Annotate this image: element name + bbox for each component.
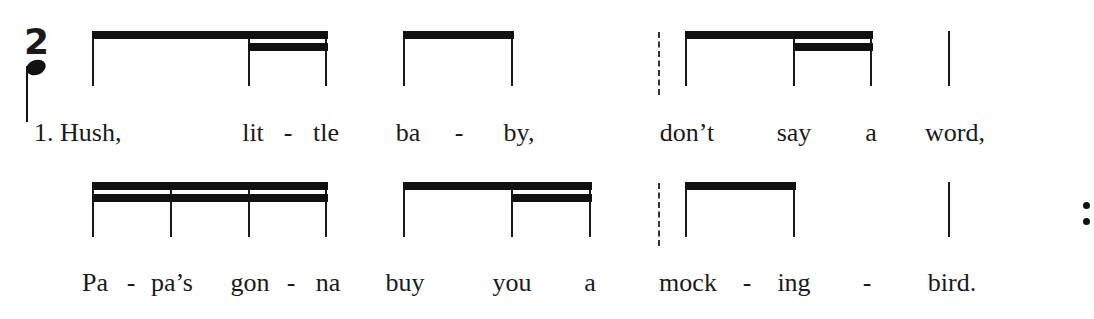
lyric-syllable: by, [504,120,535,146]
eighth-beam [685,182,796,190]
lyric-hyphen: - [284,120,293,146]
sixteenth-beam [511,194,592,202]
eighth-beam [92,31,328,39]
lyric-syllable: 1. Hush, [34,120,121,146]
note-stem [948,182,950,237]
lyric-hyphen: - [863,270,872,296]
sixteenth-beam [92,194,328,202]
note-stem [793,182,795,237]
lyric-hyphen: - [127,270,136,296]
note-stem [793,31,795,86]
lyric-hyphen: - [455,120,464,146]
dashed-barline [658,32,660,95]
note-stem [170,182,172,237]
note-stem [248,182,250,237]
quarter-note-stem [26,66,28,122]
note-stem [685,31,687,86]
note-stem [325,31,327,86]
note-stem [403,31,405,86]
note-stem [92,31,94,86]
note-stem [870,31,872,86]
eighth-beam [403,31,514,39]
eighth-beam [92,182,328,190]
sixteenth-beam [248,43,328,51]
lyric-syllable: lit [242,120,264,146]
note-stem [325,182,327,237]
lyric-syllable: tle [313,120,339,146]
lyric-syllable: gon [231,270,270,296]
note-stem [589,182,591,237]
dashed-barline [658,183,660,246]
time-signature-numerator: 2 [24,24,49,60]
lyric-syllable: ba [396,120,421,146]
lyric-hyphen: - [743,270,752,296]
lyric-syllable: bird. [928,270,976,296]
repeat-dot-icon [1083,218,1090,225]
eighth-beam [685,31,873,39]
note-stem [685,182,687,237]
repeat-dot-icon [1083,202,1090,209]
note-stem [248,31,250,86]
note-stem [92,182,94,237]
lyric-syllable: say [777,120,812,146]
eighth-beam [403,182,592,190]
lyric-syllable: you [493,270,532,296]
note-stem [403,182,405,237]
rhythm-score: 2 1. Hush,lit-tleba-by,don’tsayaword,Pa-… [0,0,1094,319]
lyric-syllable: mock [659,270,717,296]
sixteenth-beam [793,43,873,51]
lyric-hyphen: - [287,270,296,296]
lyric-syllable: pa’s [151,270,193,296]
lyric-syllable: na [316,270,341,296]
note-stem [511,31,513,86]
lyric-syllable: a [865,120,877,146]
lyric-syllable: word, [925,120,985,146]
lyric-syllable: Pa [82,270,108,296]
note-stem [948,31,950,86]
lyric-syllable: a [584,270,596,296]
note-stem [511,182,513,237]
lyric-syllable: don’t [660,120,714,146]
lyric-syllable: buy [386,270,425,296]
lyric-syllable: ing [777,270,810,296]
